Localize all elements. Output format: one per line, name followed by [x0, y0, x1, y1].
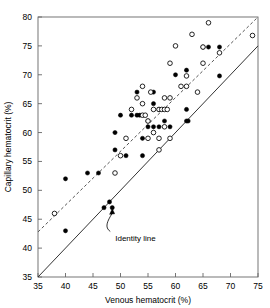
data-point-open	[146, 119, 151, 124]
y-tick-label-55: 55	[23, 156, 33, 166]
x-tick-label-40: 40	[61, 281, 71, 291]
data-point-closed	[173, 73, 177, 77]
y-tick-label-70: 70	[23, 70, 33, 80]
data-point-closed	[157, 125, 161, 129]
data-point-open	[162, 96, 167, 101]
data-point-open	[129, 107, 134, 112]
data-point-open	[173, 44, 178, 49]
data-point-closed	[140, 136, 144, 140]
data-point-closed	[217, 74, 221, 78]
data-point-open	[201, 45, 206, 50]
x-tick-label-55: 55	[143, 281, 153, 291]
data-point-open	[146, 136, 151, 141]
x-tick-label-60: 60	[171, 281, 181, 291]
data-point-closed	[113, 130, 117, 134]
data-point-closed	[206, 45, 210, 49]
data-point-closed	[124, 154, 128, 158]
data-point-closed	[186, 119, 190, 123]
x-tick-label-35: 35	[33, 281, 43, 291]
data-point-open	[195, 90, 200, 95]
y-axis-title: Capillary hematocrit (%)	[3, 101, 13, 192]
data-point-open	[168, 61, 173, 66]
y-tick-label-60: 60	[23, 128, 33, 138]
data-point-open	[162, 124, 167, 129]
identity-line-label: Identity line	[115, 234, 156, 243]
identity-line-arrow	[107, 213, 112, 231]
data-point-closed	[140, 154, 144, 158]
data-point-open	[179, 84, 184, 89]
scatter-plot-figure: 35404550556065707535404550556065707580Ve…	[0, 0, 270, 308]
data-point-open	[190, 32, 195, 37]
data-point-open	[135, 96, 140, 101]
data-point-open	[151, 107, 156, 112]
data-point-open	[157, 148, 162, 153]
data-point-closed	[63, 229, 67, 233]
data-point-open	[250, 33, 255, 38]
data-point-closed	[217, 45, 221, 49]
x-tick-label-75: 75	[253, 281, 263, 291]
data-point-open	[118, 153, 123, 158]
data-point-open	[113, 171, 118, 176]
data-point-closed	[129, 113, 133, 117]
x-tick-label-65: 65	[198, 281, 208, 291]
data-point-closed	[151, 125, 155, 129]
data-point-closed	[63, 177, 67, 181]
data-point-closed	[135, 90, 139, 94]
data-point-open	[140, 84, 145, 89]
data-point-closed	[184, 68, 188, 72]
data-point-open	[168, 136, 173, 141]
y-tick-label-65: 65	[23, 99, 33, 109]
data-point-open	[124, 136, 129, 141]
data-point-open	[184, 84, 189, 89]
data-point-open	[165, 107, 170, 112]
data-point-open	[217, 51, 222, 56]
data-point-closed	[107, 200, 111, 204]
data-point-open	[168, 96, 173, 101]
x-tick-label-70: 70	[226, 281, 236, 291]
x-tick-label-50: 50	[116, 281, 126, 291]
data-point-open	[140, 101, 145, 106]
data-point-closed	[168, 125, 172, 129]
x-tick-label-45: 45	[88, 281, 98, 291]
data-point-closed	[113, 148, 117, 152]
data-point-open	[206, 20, 211, 25]
y-tick-label-40: 40	[23, 243, 33, 253]
data-point-open	[148, 90, 153, 95]
data-point-open	[184, 74, 189, 79]
data-point-open	[143, 113, 148, 118]
y-tick-label-50: 50	[23, 185, 33, 195]
data-point-closed	[96, 171, 100, 175]
data-point-closed	[146, 125, 150, 129]
y-tick-label-35: 35	[23, 272, 33, 282]
x-axis-title: Venous hematocrit (%)	[105, 295, 191, 305]
y-tick-label-80: 80	[23, 12, 33, 22]
chart-canvas: 35404550556065707535404550556065707580Ve…	[0, 0, 270, 308]
data-point-open	[52, 211, 57, 216]
data-point-closed	[162, 119, 166, 123]
data-point-closed	[118, 113, 122, 117]
data-point-open	[151, 130, 156, 135]
data-point-closed	[151, 102, 155, 106]
data-point-closed	[85, 171, 89, 175]
data-point-closed	[184, 107, 188, 111]
data-point-closed	[102, 206, 106, 210]
y-tick-label-45: 45	[23, 214, 33, 224]
data-point-open	[157, 136, 162, 141]
y-tick-label-75: 75	[23, 41, 33, 51]
identity-line-arrowhead	[110, 209, 115, 215]
data-point-open	[201, 61, 206, 66]
